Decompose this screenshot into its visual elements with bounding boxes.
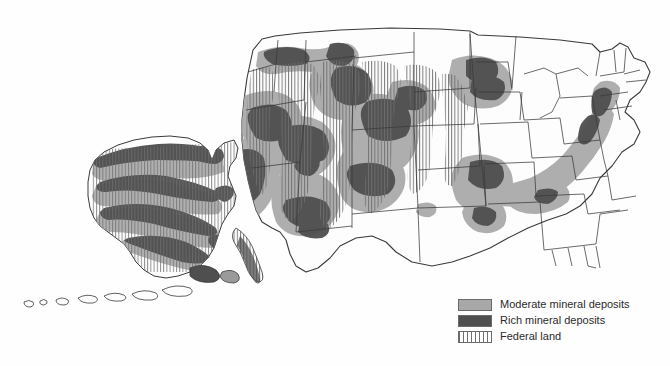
mineral-deposits-map: Moderate mineral deposits Rich mineral d… — [0, 0, 670, 366]
moderate-deposits-swatch — [458, 299, 492, 311]
legend-item-federal: Federal land — [458, 330, 630, 343]
map-legend: Moderate mineral deposits Rich mineral d… — [458, 298, 630, 343]
legend-item-moderate: Moderate mineral deposits — [458, 298, 630, 311]
legend-label-rich: Rich mineral deposits — [500, 314, 605, 327]
federal-land-swatch — [458, 331, 492, 343]
aleutian-islands — [24, 286, 192, 307]
alaska-region — [24, 136, 263, 307]
rich-deposits-swatch — [458, 315, 492, 327]
alaska-federal-layer — [92, 142, 238, 272]
contiguous-us-region — [232, 28, 650, 272]
legend-label-federal: Federal land — [500, 330, 561, 343]
alaska-southern-islands — [190, 265, 239, 283]
legend-item-rich: Rich mineral deposits — [458, 314, 630, 327]
legend-label-moderate: Moderate mineral deposits — [500, 298, 630, 311]
